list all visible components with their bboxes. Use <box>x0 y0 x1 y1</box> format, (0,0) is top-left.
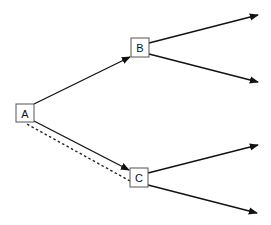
node-a-label: A <box>21 108 29 120</box>
edge-c-to-a-dashed <box>25 123 130 181</box>
decision-tree-diagram: A B C <box>0 0 271 225</box>
node-c: C <box>130 168 148 187</box>
node-b: B <box>131 38 149 57</box>
edge-a-to-b <box>34 57 130 104</box>
node-c-label: C <box>135 172 143 184</box>
node-a: A <box>16 104 34 122</box>
edge-c-to-out-4 <box>148 185 257 213</box>
edge-a-to-c <box>34 121 129 170</box>
edge-b-to-out-2 <box>149 54 258 82</box>
node-b-label: B <box>136 42 143 54</box>
edge-b-to-out-1 <box>149 15 258 43</box>
edge-c-to-out-3 <box>148 145 258 173</box>
